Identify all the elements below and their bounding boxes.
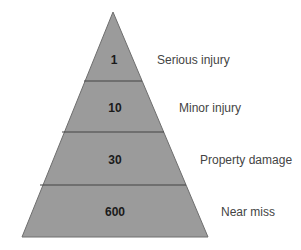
accident-pyramid-diagram: 1 Serious injury 10 Minor injury 30 Prop… bbox=[0, 0, 301, 250]
tier-value: 10 bbox=[108, 101, 122, 115]
tier-value: 1 bbox=[111, 53, 118, 67]
tier-label: Minor injury bbox=[179, 101, 241, 115]
pyramid-shape bbox=[22, 12, 208, 237]
tier-label: Property damage bbox=[200, 153, 292, 167]
tier-label: Near miss bbox=[221, 205, 275, 219]
tier-label: Serious injury bbox=[157, 53, 230, 67]
tier-value: 600 bbox=[105, 205, 125, 219]
tier-value: 30 bbox=[108, 153, 122, 167]
